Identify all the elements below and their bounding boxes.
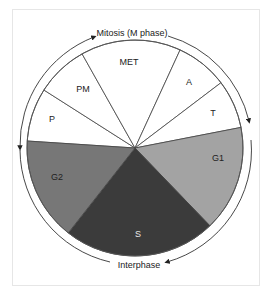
sector-label-a: A [186,77,192,87]
interphase-caption: Interphase [118,260,161,270]
mitosis-caption: Mitosis (M phase) [96,28,167,38]
cell-cycle-sectors [27,40,243,256]
sector-label-met: MET [120,57,140,67]
sector-label-p: P [49,114,55,124]
sector-label-g2: G2 [51,172,63,182]
cell-cycle-diagram: Mitosis (M phase) Interphase PPMMETATG1S… [0,0,269,297]
sector-label-s: S [135,229,141,239]
sector-label-t: T [210,108,216,118]
sector-label-pm: PM [76,84,90,94]
sector-label-g1: G1 [212,153,224,163]
